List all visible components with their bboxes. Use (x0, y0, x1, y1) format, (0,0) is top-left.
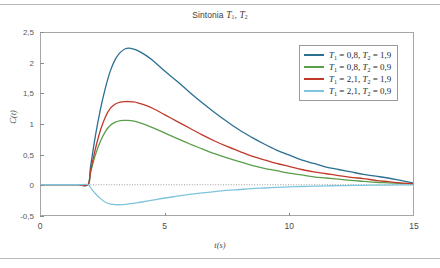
legend-item-label: T1 = 2,1, T2 = 1,9 (329, 74, 391, 85)
y-tick-label: 2 (0, 58, 34, 67)
y-tick-label: 0 (0, 181, 34, 190)
series-line-4 (41, 184, 413, 204)
chart-title-prefix: Sintonia (192, 10, 226, 20)
y-axis-title: C(t) (8, 87, 18, 147)
x-tick-label: 0 (20, 221, 60, 231)
y-tick-label: -0,5 (0, 212, 34, 221)
legend-item-label: T1 = 0,8, T2 = 1,9 (329, 50, 391, 61)
chart-legend: T1 = 0,8, T2 = 1,9T1 = 0,8, T2 = 0,9T1 =… (299, 45, 398, 101)
legend-color-swatch (304, 90, 324, 92)
y-tick-label: 2,5 (0, 28, 34, 37)
x-tick-label: 15 (394, 221, 434, 231)
legend-color-swatch (304, 66, 324, 68)
x-tick-label: 10 (269, 221, 309, 231)
x-tick-label: 5 (145, 221, 185, 231)
chart-title-sub2: 2 (245, 14, 248, 20)
chart-title: Sintonia T1, T2 (0, 10, 440, 20)
figure-container: Sintonia T1, T2 -0,500,511,522,5 051015 … (0, 0, 440, 268)
legend-color-swatch (304, 54, 324, 56)
legend-item-2[interactable]: T1 = 0,8, T2 = 0,9 (304, 61, 391, 73)
legend-item-label: T1 = 2,1, T2 = 0,9 (329, 86, 391, 97)
legend-item-label: T1 = 0,8, T2 = 0,9 (329, 62, 391, 73)
legend-item-1[interactable]: T1 = 0,8, T2 = 1,9 (304, 49, 391, 61)
y-tick-mark (40, 216, 44, 217)
legend-item-3[interactable]: T1 = 2,1, T2 = 1,9 (304, 73, 391, 85)
legend-color-swatch (304, 78, 324, 80)
y-tick-label: 0,5 (0, 150, 34, 159)
page-rule-bottom (0, 258, 440, 259)
x-axis-title: t(s) (0, 240, 440, 250)
page-rule-top (0, 4, 440, 5)
legend-item-4[interactable]: T1 = 2,1, T2 = 0,9 (304, 85, 391, 97)
